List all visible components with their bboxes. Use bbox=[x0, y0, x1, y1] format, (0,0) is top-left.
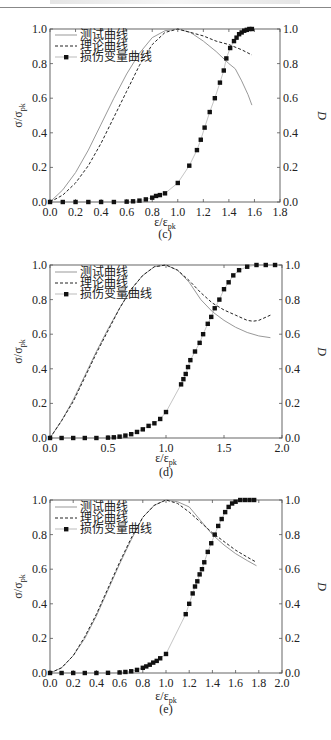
y-left-tick-label: 0.2 bbox=[32, 631, 47, 645]
x-tick-label: 0.4 bbox=[89, 676, 104, 690]
y-left-tick-label: 0.0 bbox=[32, 666, 47, 680]
chart-e: 0.00.20.40.60.81.01.21.41.61.82.00.00.00… bbox=[0, 0, 331, 740]
chart-legend: 测试曲线理论曲线损伤变量曲线 bbox=[55, 499, 152, 536]
y-right-tick-label: 0.8 bbox=[285, 528, 300, 542]
x-tick-label: 0.6 bbox=[112, 676, 127, 690]
y-right-tick-label: 1.0 bbox=[285, 493, 300, 507]
y-right-tick-label: 0.6 bbox=[285, 562, 300, 576]
x-tick-label: 0.2 bbox=[66, 676, 81, 690]
x-tick-label: 1.6 bbox=[228, 676, 243, 690]
y-right-tick-label: 0.4 bbox=[285, 597, 300, 611]
chart-e-group: 0.00.20.40.60.81.01.21.41.61.82.00.00.00… bbox=[11, 493, 329, 716]
chart-caption: (e) bbox=[159, 702, 172, 716]
y-right-tick-label: 0.0 bbox=[285, 666, 300, 680]
y-left-tick-label: 0.4 bbox=[32, 597, 47, 611]
y-right-axis-label-D: D bbox=[315, 581, 329, 591]
x-tick-label: 1.0 bbox=[159, 676, 174, 690]
x-tick-label: 1.2 bbox=[182, 676, 197, 690]
x-tick-label: 1.8 bbox=[251, 676, 266, 690]
y-left-tick-label: 0.8 bbox=[32, 528, 47, 542]
x-tick-label: 1.4 bbox=[205, 676, 220, 690]
legend-damage-curve: 损伤变量曲线 bbox=[80, 521, 152, 536]
y-left-tick-label: 1.0 bbox=[32, 493, 47, 507]
x-tick-label: 0.8 bbox=[135, 676, 150, 690]
y-left-tick-label: 0.6 bbox=[32, 562, 47, 576]
y-left-axis-label: σ/σpk bbox=[11, 574, 27, 598]
y-right-tick-label: 0.2 bbox=[285, 631, 300, 645]
